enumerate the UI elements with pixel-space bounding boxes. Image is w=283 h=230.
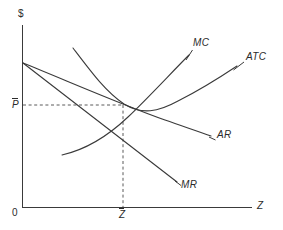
- diagram-canvas: [0, 0, 283, 230]
- quantity-axis-label: Z: [119, 210, 125, 220]
- price-axis-label: P: [12, 100, 19, 110]
- curve-label-mr: MR: [181, 180, 197, 190]
- leader-atc: [234, 62, 245, 70]
- leader-ar: [209, 137, 216, 140]
- x-axis-label: Z: [257, 201, 263, 211]
- leader-mc: [186, 50, 193, 60]
- economics-diagram: $ Z 0 P Z MC ATC AR MR: [0, 0, 283, 230]
- curve-atc: [73, 48, 237, 111]
- y-axis-label: $: [18, 9, 24, 19]
- curve-mr: [23, 63, 177, 182]
- quantity-label-text: Z: [119, 210, 125, 220]
- curve-label-ar: AR: [217, 130, 232, 140]
- curve-label-atc: ATC: [246, 52, 266, 62]
- price-label-text: P: [12, 100, 19, 110]
- origin-label: 0: [12, 208, 18, 218]
- curve-label-mc: MC: [193, 38, 209, 48]
